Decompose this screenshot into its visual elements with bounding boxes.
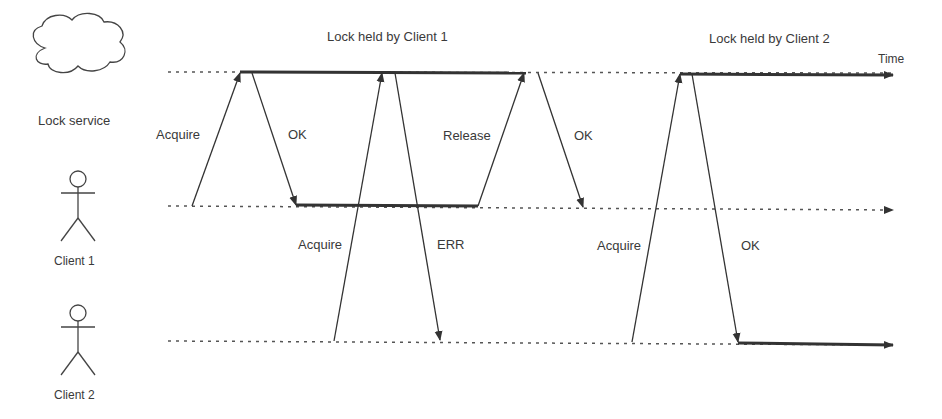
lock-held-client2-service [680,74,893,75]
sequence-diagram [0,0,942,419]
actor-label-client-2: Client 2 [54,389,95,401]
lock-held-client1 [296,205,478,206]
lock-held-client1-title: Lock held by Client 1 [327,30,448,43]
lock-held-client1-service [240,72,526,73]
message-label-ok: OK [574,129,593,142]
message-label-acquire: Acquire [298,238,342,251]
arrow-acquire-client2 [334,73,382,341]
message-label-acquire: Acquire [597,239,641,252]
message-label-ok: OK [741,239,760,252]
timeline-client-1 [168,206,893,210]
message-label-err: ERR [437,238,464,251]
time-axis-label: Time [878,53,904,65]
message-label-acquire: Acquire [156,128,200,141]
message-label-release: Release [443,129,491,142]
arrow-acquire-client2-retry [632,74,680,342]
cloud-icon [33,13,125,72]
lock-held-client2 [738,343,893,345]
actor-label-lock-service: Lock service [38,114,110,127]
stick-figure-icon [61,305,95,375]
stick-figure-icon [61,171,95,241]
lock-held-client2-title: Lock held by Client 2 [709,32,830,45]
arrow-ok-client2 [692,74,738,342]
actor-label-client-1: Client 1 [54,255,95,267]
message-label-ok: OK [288,128,307,141]
